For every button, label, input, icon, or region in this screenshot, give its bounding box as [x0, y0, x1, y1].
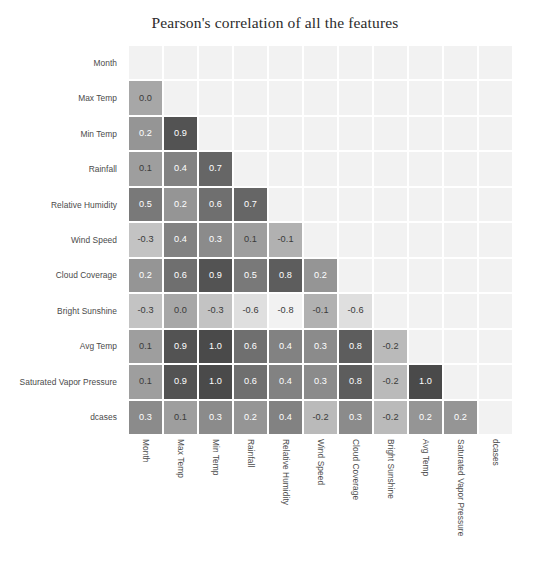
heatmap-cell: 0.5 [233, 258, 268, 293]
heatmap-cell: 0.3 [198, 222, 233, 257]
heatmap-cell-masked [373, 116, 408, 151]
heatmap-cell-masked [128, 45, 163, 80]
heatmap-cell-masked [303, 151, 338, 186]
heatmap-cell: 0.4 [268, 329, 303, 364]
heatmap-cell: 0.6 [233, 364, 268, 399]
heatmap-cell-value: 0.4 [174, 235, 187, 244]
heatmap-cell-masked [303, 116, 338, 151]
heatmap-cell: -0.1 [303, 293, 338, 328]
heatmap-cell: 0.0 [128, 80, 163, 115]
heatmap-cell-masked [443, 364, 478, 399]
heatmap-cell-value: 0.1 [139, 164, 152, 173]
heatmap-cell-value: -0.1 [312, 306, 328, 315]
y-axis-tick: Max Temp [0, 80, 124, 115]
heatmap-cell-masked [478, 293, 513, 328]
y-axis-tick: Avg Temp [0, 329, 124, 364]
x-axis-tick: dcases [478, 437, 513, 569]
heatmap-cell-value: 0.0 [139, 94, 152, 103]
heatmap-cell: 0.6 [233, 329, 268, 364]
y-axis-tick: Relative Humidity [0, 187, 124, 222]
heatmap-cell-value: 0.4 [279, 377, 292, 386]
heatmap-cell-value: 0.3 [349, 413, 362, 422]
heatmap-cell-value: -0.3 [207, 306, 223, 315]
heatmap-cell: -0.1 [268, 222, 303, 257]
heatmap-cell-value: 0.2 [419, 413, 432, 422]
x-axis-tick-label: Max Temp [176, 439, 186, 478]
heatmap-cell-masked [443, 329, 478, 364]
heatmap-cell-masked [478, 364, 513, 399]
x-axis-tick: Saturated Vapor Pressure [443, 437, 478, 569]
heatmap-cell-masked [443, 45, 478, 80]
heatmap-cell-masked [303, 187, 338, 222]
x-axis-tick-label: Cloud Coverage [351, 439, 361, 500]
heatmap-cell: 0.3 [303, 329, 338, 364]
heatmap-cell-masked [338, 151, 373, 186]
heatmap-cell: 0.7 [233, 187, 268, 222]
heatmap-cell: 0.2 [303, 258, 338, 293]
heatmap-cell-value: 0.1 [244, 235, 257, 244]
heatmap-cell-value: 0.2 [174, 200, 187, 209]
heatmap-cell-masked [233, 80, 268, 115]
y-axis-tick: Wind Speed [0, 222, 124, 257]
heatmap-cell-masked [268, 187, 303, 222]
heatmap-cell-masked [233, 45, 268, 80]
heatmap-cell: 0.8 [338, 329, 373, 364]
x-axis-tick-label: Month [141, 439, 151, 463]
x-axis-tick-label: Relative Humidity [281, 439, 291, 505]
heatmap-cell-value: 0.3 [314, 377, 327, 386]
heatmap-cell-masked [338, 80, 373, 115]
heatmap-cell-masked [373, 293, 408, 328]
heatmap-cell-value: 1.0 [209, 342, 222, 351]
y-axis-tick: Month [0, 45, 124, 80]
heatmap-cell-value: 0.3 [314, 342, 327, 351]
heatmap-cell-masked [478, 400, 513, 435]
heatmap-cell: -0.2 [373, 329, 408, 364]
heatmap-cell-masked [408, 151, 443, 186]
heatmap-cell-masked [408, 329, 443, 364]
heatmap-cell: -0.3 [128, 293, 163, 328]
heatmap-cell: 0.6 [198, 187, 233, 222]
heatmap-cell: 0.4 [163, 151, 198, 186]
x-axis-tick: Month [128, 437, 163, 569]
heatmap-cell: 0.3 [338, 400, 373, 435]
heatmap-cell: 0.3 [198, 400, 233, 435]
heatmap-cell-value: 0.2 [314, 271, 327, 280]
x-axis-tick-label: dcases [491, 439, 501, 466]
heatmap-cell-masked [408, 222, 443, 257]
heatmap-cell-masked [338, 116, 373, 151]
heatmap-cell-value: 0.3 [139, 413, 152, 422]
heatmap-cell-value: 0.5 [244, 271, 257, 280]
heatmap-cell-value: 0.1 [139, 377, 152, 386]
heatmap-cell-value: -0.6 [242, 306, 258, 315]
heatmap-cell: 0.2 [408, 400, 443, 435]
heatmap-cell-value: 0.2 [454, 413, 467, 422]
y-axis-tick: Min Temp [0, 116, 124, 151]
heatmap-cell-value: -0.2 [382, 342, 398, 351]
correlation-heatmap: 0.00.20.90.10.40.70.50.20.60.7-0.30.40.3… [128, 45, 513, 435]
heatmap-cell-masked [373, 258, 408, 293]
heatmap-cell-value: 0.2 [139, 129, 152, 138]
heatmap-cell: -0.6 [233, 293, 268, 328]
heatmap-cell: 0.4 [163, 222, 198, 257]
heatmap-cell-value: 0.4 [279, 342, 292, 351]
heatmap-cell-masked [163, 80, 198, 115]
heatmap-cell: 0.2 [163, 187, 198, 222]
x-axis-tick: Cloud Coverage [338, 437, 373, 569]
heatmap-cell-masked [338, 258, 373, 293]
x-axis-tick-label: Saturated Vapor Pressure [456, 439, 466, 536]
heatmap-cell-masked [478, 151, 513, 186]
heatmap-cell: -0.2 [373, 400, 408, 435]
heatmap-cell-masked [443, 293, 478, 328]
heatmap-cell-value: -0.3 [137, 235, 153, 244]
heatmap-cell-masked [443, 222, 478, 257]
heatmap-cell: 1.0 [408, 364, 443, 399]
heatmap-cell: 0.1 [128, 329, 163, 364]
heatmap-cell: 0.2 [128, 116, 163, 151]
heatmap-cell-value: 0.4 [279, 413, 292, 422]
heatmap-cell: 1.0 [198, 329, 233, 364]
y-axis-tick: dcases [0, 400, 124, 435]
y-axis-tick: Bright Sunshine [0, 293, 124, 328]
heatmap-cell-value: -0.6 [347, 306, 363, 315]
page-title: Pearson's correlation of all the feature… [0, 14, 550, 32]
heatmap-cell-value: 0.2 [139, 271, 152, 280]
